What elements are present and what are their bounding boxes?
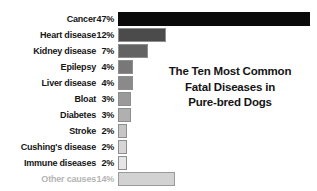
- bar-track: [118, 11, 317, 27]
- value-label: 2%: [96, 126, 118, 137]
- value-label: 4%: [96, 62, 118, 73]
- value-label: 47%: [96, 14, 118, 25]
- chart-row: Kidney disease7%: [0, 43, 317, 59]
- value-label: 12%: [96, 30, 118, 41]
- bar-track: [118, 139, 317, 155]
- category-label: Cushing's disease: [0, 142, 96, 153]
- bar: [118, 28, 166, 42]
- bar-track: [118, 171, 317, 187]
- bar-track: [118, 43, 317, 59]
- chart-row: Immune diseases2%: [0, 155, 317, 171]
- bar: [118, 108, 131, 122]
- category-label: Epilepsy: [0, 62, 96, 73]
- category-label: Liver disease: [0, 78, 96, 89]
- bar: [118, 12, 310, 26]
- chart-row: Cushing's disease2%: [0, 139, 317, 155]
- value-label: 4%: [96, 78, 118, 89]
- category-label: Kidney disease: [0, 46, 96, 57]
- bar: [118, 156, 127, 170]
- bar: [118, 92, 131, 106]
- bar: [118, 76, 133, 90]
- bar-track: [118, 155, 317, 171]
- bar: [118, 140, 127, 154]
- value-label: 14%: [96, 174, 118, 185]
- bar-track: [118, 123, 317, 139]
- bar: [118, 60, 133, 74]
- value-label: 2%: [96, 142, 118, 153]
- category-label: Diabetes: [0, 110, 96, 121]
- chart-row: Stroke2%: [0, 123, 317, 139]
- value-label: 3%: [96, 110, 118, 121]
- chart-title-line: Pure-bred Dogs: [148, 95, 312, 111]
- bar: [118, 124, 127, 138]
- chart-row: Other causes14%: [0, 171, 317, 187]
- category-label: Bloat: [0, 94, 96, 105]
- chart-row: Cancer47%: [0, 11, 317, 27]
- category-label: Other causes: [0, 174, 96, 185]
- fatal-diseases-bar-chart: Cancer47%Heart disease12%Kidney disease7…: [0, 0, 317, 191]
- chart-title-line: Fatal Diseases in: [148, 80, 312, 96]
- bar-track: [118, 27, 317, 43]
- chart-title-line: The Ten Most Common: [148, 64, 312, 80]
- value-label: 7%: [96, 46, 118, 57]
- category-label: Cancer: [0, 14, 96, 25]
- chart-row: Heart disease12%: [0, 27, 317, 43]
- value-label: 2%: [96, 158, 118, 169]
- bar: [118, 44, 148, 58]
- bar: [118, 172, 175, 186]
- value-label: 3%: [96, 94, 118, 105]
- category-label: Heart disease: [0, 30, 96, 41]
- category-label: Immune diseases: [0, 158, 96, 169]
- chart-title: The Ten Most CommonFatal Diseases inPure…: [148, 64, 312, 111]
- category-label: Stroke: [0, 126, 96, 137]
